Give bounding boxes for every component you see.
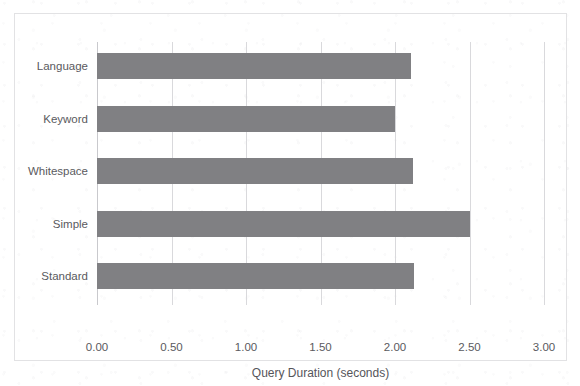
- category-label-standard: Standard: [41, 266, 88, 286]
- bar-whitespace[interactable]: [97, 158, 413, 184]
- bar-language[interactable]: [97, 53, 411, 79]
- bar-row: Language: [97, 42, 544, 95]
- x-tick-label-1.00: 1.00: [235, 341, 257, 353]
- category-label-language: Language: [37, 56, 88, 76]
- plot-area: LanguageKeywordWhitespaceSimpleStandard …: [97, 42, 544, 305]
- x-tick-label-0.50: 0.50: [160, 341, 182, 353]
- x-tick-label-1.50: 1.50: [309, 341, 331, 353]
- x-tick-label-2.50: 2.50: [458, 341, 480, 353]
- bar-standard[interactable]: [97, 263, 414, 289]
- x-tick-label-3.00: 3.00: [533, 341, 555, 353]
- x-axis-title: Query Duration (seconds): [97, 366, 544, 380]
- gridline-3.00: [544, 42, 545, 305]
- bar-simple[interactable]: [97, 211, 470, 237]
- category-label-simple: Simple: [53, 214, 88, 234]
- x-tick-label-0.00: 0.00: [86, 341, 108, 353]
- category-label-keyword: Keyword: [43, 109, 88, 129]
- category-label-whitespace: Whitespace: [28, 161, 88, 181]
- bar-row: Keyword: [97, 95, 544, 148]
- bar-row: Standard: [97, 252, 544, 305]
- chart-frame: LanguageKeywordWhitespaceSimpleStandard …: [14, 13, 567, 361]
- x-tick-label-2.00: 2.00: [384, 341, 406, 353]
- bar-keyword[interactable]: [97, 106, 395, 132]
- bar-row: Simple: [97, 200, 544, 253]
- bar-row: Whitespace: [97, 147, 544, 200]
